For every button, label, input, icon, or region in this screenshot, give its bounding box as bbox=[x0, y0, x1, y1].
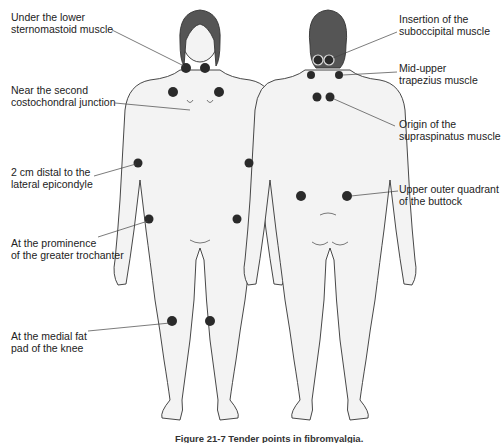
label-trapezius: Mid-uppertrapezius muscle bbox=[399, 62, 478, 86]
label-lateral-epicondyle: 2 cm distal to thelateral epicondyle bbox=[11, 166, 93, 190]
tender-points-figure: Under the lowersternomastoid muscle Near… bbox=[0, 0, 504, 443]
label-supraspinatus: Origin of thesupraspinatus muscle bbox=[399, 118, 501, 142]
label-buttock: Upper outer quadrantof the buttock bbox=[399, 183, 499, 207]
figure-caption: Figure 21-7 Tender points in fibromyalgi… bbox=[175, 433, 363, 443]
label-knee-fat-pad: At the medial fatpad of the knee bbox=[11, 330, 87, 354]
label-greater-trochanter: At the prominenceof the greater trochant… bbox=[11, 237, 124, 261]
label-sternomastoid: Under the lowersternomastoid muscle bbox=[11, 11, 113, 35]
label-suboccipital: Insertion of thesuboccipital muscle bbox=[399, 13, 490, 37]
label-costochondral: Near the secondcostochondral junction bbox=[11, 84, 115, 108]
